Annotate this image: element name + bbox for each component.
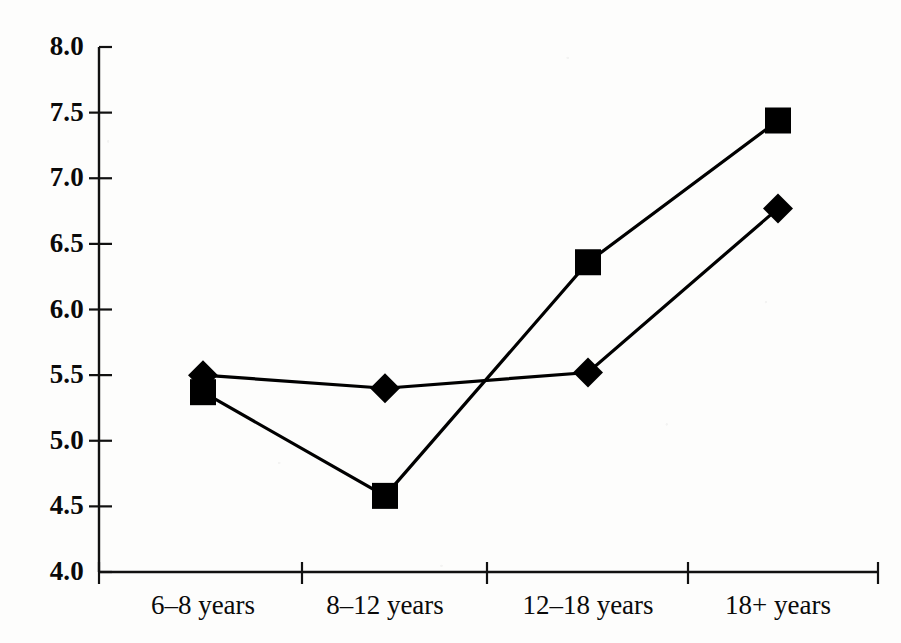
y-axis-tick-label: 6.0 [50,296,84,323]
line-path-series-square [203,121,778,496]
series-data-markers [188,108,793,509]
y-axis-tick-label: 4.5 [50,492,84,519]
y-axis-tick-label: 4.0 [50,558,84,585]
series-line-paths [203,121,778,496]
y-axis-tick-marks [89,47,112,572]
data-point-series-diamond-1 [370,373,400,403]
data-point-series-square-1 [372,483,398,509]
x-axis-category-label-2: 12–18 years [478,592,698,619]
y-axis-tick-label: 7.5 [50,99,84,126]
x-axis-category-label-1: 8–12 years [275,592,495,619]
x-axis-category-label-3: 18+ years [668,592,888,619]
chart-figure: 4.04.55.05.56.06.57.07.58.0 6–8 years8–1… [0,0,901,643]
y-axis-tick-label: 5.5 [50,361,84,388]
data-point-series-square-3 [765,108,791,134]
y-axis-tick-label: 7.0 [50,164,84,191]
data-point-series-square-0 [190,379,216,405]
data-point-series-square-2 [575,249,601,275]
y-axis-tick-label: 8.0 [50,33,84,60]
y-axis-tick-label: 6.5 [50,230,84,257]
line-path-series-diamond [203,208,778,388]
line-chart-plot [0,0,901,643]
y-axis-tick-label: 5.0 [50,427,84,454]
